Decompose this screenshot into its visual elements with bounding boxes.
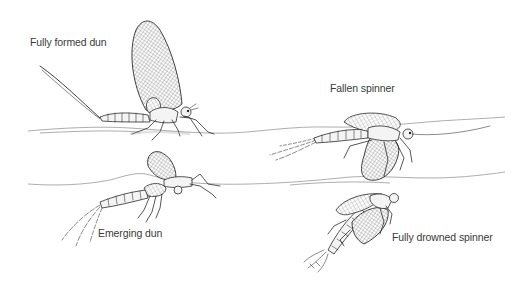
label-fully-drowned-spinner: Fully drowned spinner [392, 231, 493, 243]
mayfly-life-stages-illustration: Fully formed dun Fallen spinner Emerging… [0, 0, 529, 288]
lower-water-surface [28, 172, 505, 185]
upper-water-surface [28, 117, 505, 133]
label-fully-formed-dun: Fully formed dun [30, 36, 107, 48]
label-emerging-dun: Emerging dun [98, 227, 162, 239]
fully-drowned-spinner-drawing [304, 194, 399, 273]
label-fallen-spinner: Fallen spinner [330, 82, 395, 94]
fallen-spinner-drawing [270, 113, 490, 180]
